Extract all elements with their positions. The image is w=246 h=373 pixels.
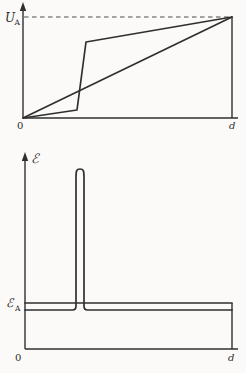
ua-label-sub: A [14,18,21,27]
top-origin-label: 0 [17,120,23,131]
top-panel: U A 0 d [5,2,238,131]
bottom-x-end-label: d [228,352,234,363]
bottom-origin-label: 0 [15,352,21,363]
bottom-panel: ℰ ℰ A 0 d [6,151,238,363]
top-y-axis-arrow-icon [20,2,26,11]
figure-canvas: U A 0 d ℰ ℰ A 0 d [0,0,246,373]
two-panel-plot: U A 0 d ℰ ℰ A 0 d [0,0,246,373]
top-curve-linear [23,17,232,118]
field-level-label-main: ℰ [6,296,15,310]
bottom-y-axis-arrow-icon [22,152,28,161]
bottom-curve-spike [25,169,232,310]
top-x-end-label: d [229,120,235,131]
field-axis-label: ℰ [31,151,40,166]
field-level-label-sub: A [14,304,21,313]
